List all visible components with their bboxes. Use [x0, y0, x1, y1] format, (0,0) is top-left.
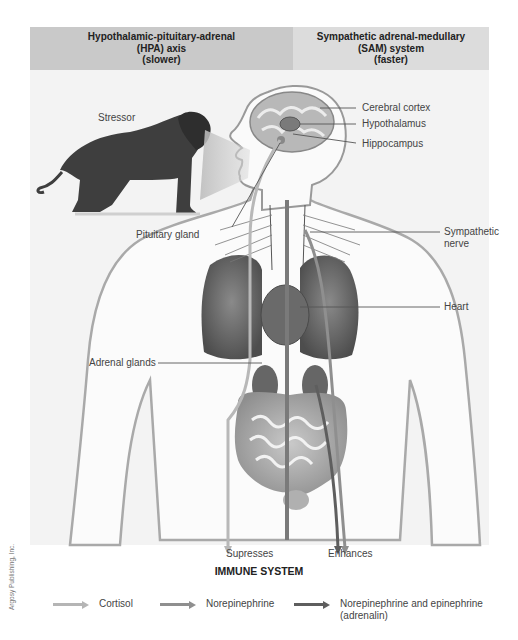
- legend-item-cortisol: Cortisol: [53, 598, 133, 610]
- image-credit: Argosy Publishing, Inc.: [8, 544, 15, 610]
- label-stressor: Stressor: [98, 112, 135, 124]
- legend-label-norepinephrine-epinephrine: Norepinephrine and epinephrine (adrenali…: [340, 598, 483, 622]
- legend-item-norepinephrine-epinephrine: Norepinephrine and epinephrine (adrenali…: [294, 598, 483, 622]
- legend-arrow-icon: [53, 598, 89, 610]
- label-cerebral-cortex: Cerebral cortex: [362, 102, 430, 114]
- label-enhances: Enhances: [328, 548, 372, 560]
- label-hippocampus: Hippocampus: [362, 138, 423, 150]
- label-sympathetic-nerve: Sympathetic nerve: [444, 226, 499, 250]
- anatomy-illustration: [0, 0, 518, 640]
- label-heart: Heart: [444, 301, 468, 313]
- legend-arrow-icon: [294, 598, 330, 610]
- legend-arrow-icon: [160, 598, 196, 610]
- label-sympathetic-line2: nerve: [444, 238, 499, 250]
- label-hypothalamus: Hypothalamus: [362, 118, 426, 130]
- legend-item-norepinephrine: Norepinephrine: [160, 598, 274, 610]
- label-adrenal-glands: Adrenal glands: [89, 357, 156, 369]
- brain: [250, 92, 334, 152]
- legend-label-cortisol: Cortisol: [99, 598, 133, 610]
- label-supresses: Supresses: [226, 548, 273, 560]
- immune-system-title: IMMUNE SYSTEM: [0, 565, 518, 577]
- lion-stressor: [38, 112, 211, 214]
- label-sympathetic-line1: Sympathetic: [444, 226, 499, 238]
- legend-label-norepinephrine: Norepinephrine: [206, 598, 274, 610]
- label-pituitary-gland: Pituitary gland: [136, 229, 199, 241]
- legend-label-line2: (adrenalin): [340, 610, 483, 622]
- legend-label-line1: Norepinephrine and epinephrine: [340, 598, 483, 610]
